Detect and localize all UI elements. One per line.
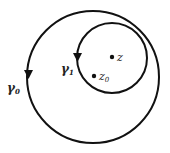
point-z0 [92, 74, 96, 78]
label-gamma1: γ1 [61, 62, 74, 77]
label-z0: z0 [98, 70, 110, 84]
arrow-down-icon [24, 70, 33, 79]
contour-diagram: z z0 γ1 γ0 [0, 0, 170, 153]
diagram-canvas: z z0 γ1 γ0 [0, 0, 170, 153]
point-z [110, 55, 114, 59]
label-gamma0: γ0 [7, 81, 20, 96]
arrow-down-icon [73, 53, 82, 62]
label-z: z [116, 51, 123, 64]
